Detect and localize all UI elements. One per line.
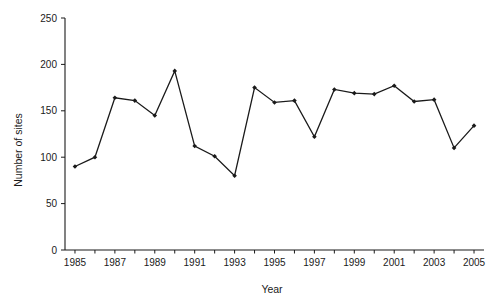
y-axis-tick-label: 0 xyxy=(51,245,57,256)
y-axis-tick-label: 50 xyxy=(46,198,58,209)
x-axis-tick-label: 1995 xyxy=(263,257,286,268)
y-axis-title: Number of sites xyxy=(12,113,24,187)
y-axis-tick-label: 150 xyxy=(40,105,57,116)
x-axis-tick-label: 1987 xyxy=(104,257,127,268)
data-line-path xyxy=(75,71,474,176)
data-point-marker xyxy=(352,91,357,96)
x-axis-tick-label: 1985 xyxy=(64,257,87,268)
x-axis-tick-label: 1999 xyxy=(343,257,366,268)
y-axis: 050100150200250 xyxy=(40,13,65,256)
chart-canvas: 050100150200250 198519871989199119931995… xyxy=(0,0,494,303)
y-axis-tick-label: 200 xyxy=(40,59,57,70)
x-axis-tick-label: 2003 xyxy=(423,257,446,268)
data-point-marker xyxy=(93,155,98,160)
x-axis-tick-label: 1989 xyxy=(144,257,167,268)
data-point-marker xyxy=(372,92,377,97)
data-point-marker xyxy=(172,69,177,74)
x-axis-tick-label: 2005 xyxy=(463,257,486,268)
data-point-marker xyxy=(113,96,118,101)
x-axis-title: Year xyxy=(261,283,283,295)
line-chart-figure: 050100150200250 198519871989199119931995… xyxy=(0,0,494,303)
x-axis: 1985198719891991199319951997199920012003… xyxy=(64,250,486,268)
x-axis-tick-label: 1993 xyxy=(223,257,246,268)
data-series-number-of-sites xyxy=(73,69,477,178)
x-axis-tick-label: 1991 xyxy=(184,257,207,268)
y-axis-tick-label: 100 xyxy=(40,152,57,163)
data-point-marker xyxy=(432,97,437,102)
x-axis-tick-label: 1997 xyxy=(303,257,326,268)
data-point-marker xyxy=(192,144,197,149)
x-axis-tick-label: 2001 xyxy=(383,257,406,268)
data-point-marker xyxy=(73,164,78,169)
data-point-marker xyxy=(332,87,337,92)
y-axis-tick-label: 250 xyxy=(40,13,57,24)
